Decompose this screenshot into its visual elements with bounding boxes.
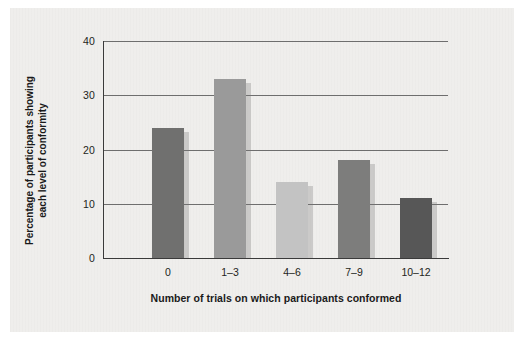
x-tick-label-2: 4–6: [283, 266, 301, 278]
bar-shadow-4: [432, 202, 437, 258]
y-tick-label-40: 40: [83, 35, 95, 47]
x-tick-label-1: 1–3: [221, 266, 239, 278]
bar-shadow-1: [246, 83, 251, 258]
bar-fill-2: [276, 182, 308, 258]
y-axis-title: Percentage of participants showing each …: [24, 71, 49, 251]
x-tick-label-0: 0: [165, 266, 171, 278]
bar-shadow-2: [308, 186, 313, 258]
x-tick-label-3: 7–9: [345, 266, 363, 278]
bar-4[interactable]: [400, 198, 432, 258]
bar-1[interactable]: [214, 79, 246, 258]
bars-layer: [103, 41, 449, 258]
x-axis-line: [103, 258, 449, 259]
y-tick-label-10: 10: [83, 198, 95, 210]
bar-shadow-0: [184, 132, 189, 258]
bar-fill-1: [214, 79, 246, 258]
y-axis-title-line-2: each level of conformity: [36, 71, 49, 251]
bar-fill-0: [152, 128, 184, 258]
bar-2[interactable]: [276, 182, 308, 258]
x-axis-title: Number of trials on which participants c…: [103, 292, 449, 304]
bar-fill-4: [400, 198, 432, 258]
bar-shadow-3: [370, 164, 375, 258]
x-tick-label-4: 10–12: [401, 266, 430, 278]
bar-fill-3: [338, 160, 370, 258]
y-axis-tick-labels: 40 30 20 10 0: [62, 0, 95, 339]
figure-container: 40 30 20 10 0: [0, 0, 526, 339]
y-tick-label-20: 20: [83, 144, 95, 156]
bar-0[interactable]: [152, 128, 184, 258]
y-axis-title-line-1: Percentage of participants showing: [24, 71, 37, 251]
bar-3[interactable]: [338, 160, 370, 258]
y-tick-label-30: 30: [83, 89, 95, 101]
y-tick-label-0: 0: [89, 252, 95, 264]
